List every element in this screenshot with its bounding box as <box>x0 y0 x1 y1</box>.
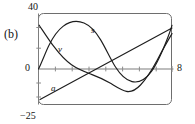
curve-label-a: a <box>51 83 56 93</box>
y-axis-min-label: −25 <box>20 110 36 121</box>
curve-label-s: s <box>91 25 95 35</box>
figure-panel-b: (b) 40 <box>0 0 195 124</box>
curve-label-v: v <box>58 44 62 54</box>
curve-a <box>40 28 172 100</box>
y-axis-zero-label: 0 <box>25 62 30 73</box>
plot-frame <box>39 14 172 105</box>
y-axis-max-label: 40 <box>28 1 38 12</box>
x-axis-max-label: 8 <box>177 62 182 73</box>
curve-v <box>39 25 172 91</box>
